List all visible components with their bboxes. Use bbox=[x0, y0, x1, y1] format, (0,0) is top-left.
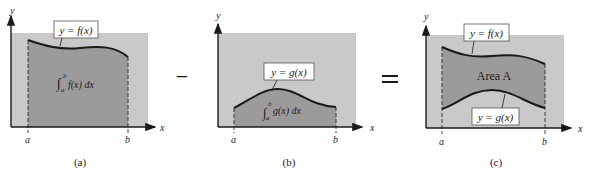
bound-label-a: a bbox=[25, 134, 30, 145]
panel-a: y x a b y = f(x) ∫ b a f(x) dx (a) bbox=[9, 5, 165, 169]
panel-b: y x a b y = g(x) ∫ b a g(x) dx (b) bbox=[215, 10, 375, 169]
area-between-curves-diagram: y x a b y = f(x) ∫ b a f(x) dx (a) − y x… bbox=[0, 0, 592, 180]
svg-text:a: a bbox=[266, 114, 270, 122]
x-axis-label: x bbox=[577, 123, 583, 134]
panel-c: y x a b y = f(x) y = g(x) Area A (c) bbox=[423, 11, 583, 169]
panel-caption: (c) bbox=[490, 156, 503, 169]
bound-label-a: a bbox=[439, 136, 444, 147]
bound-label-a: a bbox=[231, 134, 236, 145]
panel-caption: (a) bbox=[74, 156, 87, 169]
curve-label-f: y = f(x) bbox=[58, 24, 92, 37]
svg-text:b: b bbox=[63, 72, 67, 80]
y-axis-label: y bbox=[215, 10, 221, 21]
y-axis-label: y bbox=[9, 5, 15, 16]
curve-label-g: y = g(x) bbox=[270, 66, 307, 79]
area-label: Area A bbox=[477, 69, 512, 83]
svg-text:b: b bbox=[268, 100, 272, 108]
y-axis-label: y bbox=[423, 11, 429, 22]
svg-text:f(x) dx: f(x) dx bbox=[68, 79, 94, 91]
panel-caption: (b) bbox=[283, 156, 296, 169]
minus-operator: − bbox=[176, 64, 188, 89]
bound-label-b: b bbox=[333, 134, 338, 145]
svg-text:g(x) dx: g(x) dx bbox=[273, 105, 302, 117]
equals-operator bbox=[382, 76, 398, 82]
bound-label-b: b bbox=[542, 136, 547, 147]
x-axis-label: x bbox=[369, 122, 375, 133]
curve-label-f: y = f(x) bbox=[469, 27, 503, 40]
x-axis-label: x bbox=[159, 122, 165, 133]
curve-label-g: y = g(x) bbox=[477, 111, 514, 124]
svg-text:a: a bbox=[61, 86, 65, 94]
bound-label-b: b bbox=[125, 134, 130, 145]
